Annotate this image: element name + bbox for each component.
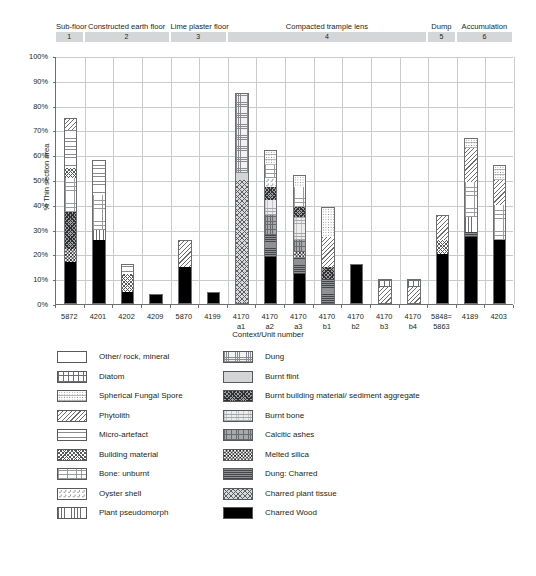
stacked-bar[interactable]: [378, 279, 392, 304]
bar-segment-phyto[interactable]: [464, 148, 478, 183]
legend-label: Melted silica: [265, 448, 309, 461]
bar-segment-dungch[interactable]: [464, 232, 478, 237]
bar-segment-micro[interactable]: [64, 130, 78, 167]
bar-segment-phyto[interactable]: [378, 287, 392, 304]
bar-segment-wood[interactable]: [121, 292, 135, 304]
stacked-bar[interactable]: [321, 207, 335, 304]
bar-segment-bone[interactable]: [64, 178, 78, 213]
bar-segment-wood[interactable]: [178, 267, 192, 304]
bar-segment-bone[interactable]: [264, 165, 278, 177]
stacked-bar[interactable]: [407, 279, 421, 304]
bar-segment-calc[interactable]: [264, 215, 278, 235]
bar-segment-wood[interactable]: [350, 264, 364, 304]
bar-segment-dungch[interactable]: [321, 279, 335, 304]
stacked-bar[interactable]: [92, 160, 106, 304]
bar-segment-bone[interactable]: [92, 195, 106, 230]
bar-segment-wood[interactable]: [293, 274, 307, 304]
bar-segment-bldg[interactable]: [436, 240, 450, 255]
x-tick-mark: [227, 305, 228, 308]
y-tick-mark: [53, 131, 56, 132]
bar-segment-phyto[interactable]: [64, 118, 78, 130]
legend-label: Diatom: [99, 370, 124, 383]
bar-segment-bone[interactable]: [493, 205, 507, 240]
x-tick-mark: [198, 305, 199, 308]
bar-segment-dungch[interactable]: [293, 257, 307, 274]
bar-segment-micro[interactable]: [92, 160, 106, 195]
bar-segment-phyto[interactable]: [407, 287, 421, 304]
bar-segment-bbm[interactable]: [64, 212, 78, 249]
stacked-bar[interactable]: [464, 138, 478, 304]
stacked-bar[interactable]: [350, 264, 364, 304]
bar-segment-oyster[interactable]: [264, 178, 278, 188]
x-tick-mark: [456, 305, 457, 308]
bar-segment-bone[interactable]: [464, 182, 478, 217]
bar-segment-phyto[interactable]: [321, 237, 335, 267]
bar-segment-wood[interactable]: [436, 254, 450, 304]
bar-segment-phyto[interactable]: [178, 240, 192, 267]
bar-segment-bbm[interactable]: [321, 267, 335, 279]
x-gridline: [85, 57, 86, 304]
phase-group-number: 1: [56, 32, 83, 42]
bar-segment-bldg[interactable]: [121, 274, 135, 291]
stacked-bar[interactable]: [293, 175, 307, 304]
bar-segment-bbone[interactable]: [293, 217, 307, 239]
stacked-bar[interactable]: [493, 165, 507, 304]
bar-segment-wood[interactable]: [149, 294, 163, 304]
bar-segment-flint[interactable]: [235, 173, 249, 180]
phase-group-label: Lime plaster floor: [171, 22, 226, 31]
x-gridline: [428, 57, 429, 304]
bar-segment-wood[interactable]: [264, 257, 278, 304]
bar-segment-sfs[interactable]: [264, 150, 278, 165]
bar-segment-pseudo[interactable]: [92, 230, 106, 240]
phase-group-number: 5: [428, 32, 455, 42]
bar-segment-bldg[interactable]: [64, 168, 78, 178]
bar-segment-sfs[interactable]: [321, 207, 335, 237]
stacked-bar[interactable]: [264, 150, 278, 304]
bar-segment-phyto[interactable]: [493, 180, 507, 205]
stacked-bar[interactable]: [121, 264, 135, 304]
bar-segment-bone[interactable]: [293, 187, 307, 207]
bar-segment-phyto[interactable]: [436, 215, 450, 240]
y-tick-label: 60%: [8, 152, 48, 160]
stacked-bar[interactable]: [436, 215, 450, 304]
bar-segment-bbm[interactable]: [293, 207, 307, 217]
stacked-bar[interactable]: [64, 118, 78, 304]
x-tick-mark: [84, 305, 85, 308]
stacked-bar[interactable]: [207, 292, 221, 304]
bar-segment-melted[interactable]: [293, 252, 307, 257]
bar-segment-sfs[interactable]: [293, 175, 307, 187]
bar-segment-diatom[interactable]: [407, 279, 421, 286]
bar-segment-dungch[interactable]: [264, 235, 278, 257]
bar-segment-melted[interactable]: [64, 249, 78, 261]
legend-label: Charred plant tissue: [265, 487, 337, 500]
x-gridline: [256, 57, 257, 304]
bar-segment-dung[interactable]: [235, 93, 249, 172]
legend-label: Dung: [265, 350, 284, 363]
bar-segment-calc[interactable]: [293, 240, 307, 252]
bar-segment-diatom[interactable]: [378, 279, 392, 286]
bar-segment-wood[interactable]: [92, 240, 106, 304]
bar-segment-wood[interactable]: [64, 262, 78, 304]
legend-label: Micro-artefact: [99, 428, 148, 441]
x-gridline: [228, 57, 229, 304]
bar-segment-sfs[interactable]: [464, 138, 478, 148]
x-tick-mark: [170, 305, 171, 308]
stacked-bar[interactable]: [149, 294, 163, 304]
x-gridline: [142, 57, 143, 304]
y-tick-label: 90%: [8, 78, 48, 86]
bar-segment-sfs[interactable]: [493, 165, 507, 180]
stacked-bar[interactable]: [178, 240, 192, 304]
bar-segment-bbm[interactable]: [264, 187, 278, 199]
bar-segment-pseudo[interactable]: [464, 217, 478, 232]
bar-segment-cpt[interactable]: [235, 180, 249, 304]
bar-segment-wood[interactable]: [493, 240, 507, 304]
stacked-bar[interactable]: [235, 93, 249, 304]
bar-segment-wood[interactable]: [207, 292, 221, 304]
legend-swatch-micro: [57, 429, 87, 441]
legend-swatch-bldg: [57, 449, 87, 461]
phase-group-band-row: Sub-floor1Constructed earth floor2Lime p…: [0, 22, 536, 48]
bar-segment-micro[interactable]: [121, 264, 135, 274]
x-tick-mark: [141, 305, 142, 308]
bar-segment-wood[interactable]: [464, 237, 478, 304]
bar-segment-bbone[interactable]: [264, 200, 278, 215]
